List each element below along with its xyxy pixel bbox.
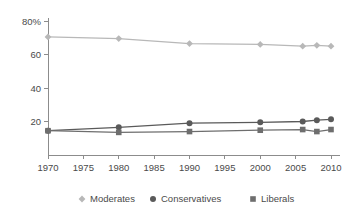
legend-label: Conservatives [161,193,221,204]
legend-item-liberals[interactable]: Liberals [250,193,294,204]
x-tick-label: 1990 [179,162,200,173]
line-chart-svg: 80%604020 197019751980198519901995200020… [0,0,358,221]
x-tick-label: 1995 [214,162,235,173]
x-tick-label: 1985 [144,162,165,173]
x-axis-ticks: 197019751980198519901995200020052010 [37,155,341,173]
legend-marker-circle-icon [150,196,156,202]
legend-item-conservatives[interactable]: Conservatives [150,193,221,204]
data-point [187,120,193,126]
series-moderates [45,34,335,50]
legend-item-moderates[interactable]: Moderates [79,193,136,204]
data-point [314,129,320,135]
plot-area: 80%604020 197019751980198519901995200020… [0,0,358,221]
data-point [300,119,306,125]
legend-label: Liberals [261,193,295,204]
data-point [314,117,320,123]
data-point [115,35,122,42]
data-point [187,129,193,135]
series-liberals [45,127,334,135]
x-tick-label: 2005 [285,162,306,173]
data-point [300,127,306,133]
y-axis-ticks: 80%604020 [22,16,48,128]
chart-container: 80%604020 197019751980198519901995200020… [0,0,358,221]
data-point [186,40,193,47]
data-point [328,127,334,133]
data-point [116,124,122,130]
x-tick-label: 1970 [37,162,58,173]
data-point [45,128,51,134]
data-point [313,42,320,49]
data-point [45,34,52,41]
legend-marker-diamond-icon [79,196,86,203]
data-point [328,116,334,122]
x-tick-label: 2000 [250,162,271,173]
data-point [299,43,306,50]
data-point [116,130,122,136]
data-point [257,119,263,125]
y-tick-label: 60 [30,49,41,60]
y-tick-label: 20 [30,116,41,127]
legend-label: Moderates [90,193,135,204]
x-tick-label: 1980 [108,162,129,173]
data-point [257,127,263,133]
data-point [257,41,264,48]
x-tick-label: 1975 [73,162,94,173]
y-tick-label: 80% [22,16,42,27]
legend-marker-square-icon [250,196,256,202]
chart-legend: ModeratesConservativesLiberals [79,193,295,204]
data-point [328,43,335,50]
y-tick-label: 40 [30,83,41,94]
x-tick-label: 2010 [320,162,341,173]
series-layer [45,34,335,136]
